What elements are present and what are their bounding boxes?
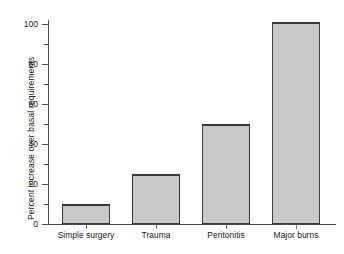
y-tick-0 <box>42 224 49 225</box>
x-tick-3 <box>296 225 297 229</box>
y-tick-label-100: 100 <box>12 20 38 29</box>
y-tick-minor-70 <box>44 84 49 85</box>
x-tick-0 <box>86 225 87 229</box>
y-tick-minor-50 <box>44 124 49 125</box>
y-tick-label-40: 40 <box>12 140 38 149</box>
x-axis-line <box>48 224 336 225</box>
y-axis-line <box>48 20 49 225</box>
bar-chart: Percent increase over basal requirements… <box>0 0 344 254</box>
x-label-trauma: Trauma <box>121 230 191 241</box>
y-tick-minor-10 <box>44 204 49 205</box>
y-tick-20 <box>42 184 49 185</box>
y-tick-label-20: 20 <box>12 180 38 189</box>
x-label-simple-surgery: Simple surgery <box>51 230 121 241</box>
y-tick-minor-30 <box>44 164 49 165</box>
y-tick-label-0: 0 <box>12 220 38 229</box>
bar-simple-surgery <box>62 204 110 224</box>
x-tick-1 <box>156 225 157 229</box>
y-tick-100 <box>42 24 49 25</box>
y-tick-60 <box>42 104 49 105</box>
y-axis-title: Percent increase over basal requirements <box>24 20 38 220</box>
x-label-major-burns: Major burns <box>261 230 331 241</box>
x-tick-2 <box>226 225 227 229</box>
bar-trauma <box>132 174 180 224</box>
x-label-peritonitis: Peritonitis <box>191 230 261 241</box>
y-tick-80 <box>42 64 49 65</box>
y-tick-label-60: 60 <box>12 100 38 109</box>
bar-major-burns <box>272 22 320 224</box>
bar-peritonitis <box>202 124 250 224</box>
y-tick-40 <box>42 144 49 145</box>
y-tick-label-80: 80 <box>12 60 38 69</box>
y-tick-minor-90 <box>44 44 49 45</box>
